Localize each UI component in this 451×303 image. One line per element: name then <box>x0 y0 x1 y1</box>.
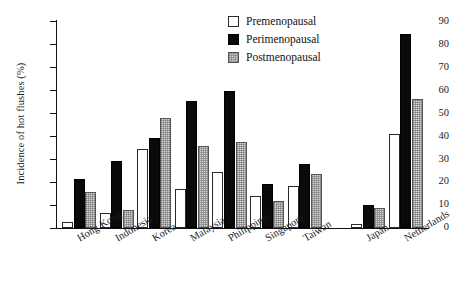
y-axis-tick <box>50 44 57 45</box>
bar <box>62 222 73 229</box>
bar <box>236 142 247 228</box>
bar <box>186 101 197 228</box>
legend-swatch-postmenopausal-icon <box>228 52 239 63</box>
legend-item-perimenopausal: Perimenopausal <box>228 32 321 48</box>
bar <box>160 118 171 228</box>
y-axis-title: Incidence of hot flushes (%) <box>15 19 26 229</box>
y-axis-tick <box>50 205 57 206</box>
y-axis-tick <box>50 182 57 183</box>
bar-group <box>62 22 96 229</box>
y-axis-tick <box>50 90 57 91</box>
legend-item-premenopausal: Premenopausal <box>228 14 321 30</box>
bar-group <box>389 22 423 229</box>
bar <box>351 224 362 229</box>
bar <box>198 146 209 229</box>
legend-swatch-perimenopausal-icon <box>228 34 239 45</box>
legend-label-premenopausal: Premenopausal <box>246 16 316 28</box>
bar-group <box>137 22 171 229</box>
bar <box>74 179 85 228</box>
bar <box>412 99 423 229</box>
bar <box>389 134 400 228</box>
bar <box>363 205 374 228</box>
legend-item-postmenopausal: Postmenopausal <box>228 50 321 66</box>
y-axis-line <box>56 20 57 229</box>
y-axis-tick <box>50 113 57 114</box>
y-axis-tick <box>50 228 57 229</box>
y-axis-tick <box>50 21 57 22</box>
bar <box>224 91 235 229</box>
y-axis-tick <box>50 136 57 137</box>
bar-group <box>100 22 134 229</box>
bar <box>175 189 186 228</box>
y-axis-tick <box>50 67 57 68</box>
legend-label-perimenopausal: Perimenopausal <box>246 34 319 46</box>
bar <box>149 138 160 229</box>
chart-legend: Premenopausal Perimenopausal Postmenopau… <box>228 14 321 68</box>
bar <box>400 34 411 228</box>
y-axis-tick <box>50 159 57 160</box>
bar <box>311 174 322 228</box>
bar-group <box>351 22 385 229</box>
bar-group <box>175 22 209 229</box>
legend-swatch-premenopausal-icon <box>228 16 239 27</box>
legend-label-postmenopausal: Postmenopausal <box>246 52 321 64</box>
